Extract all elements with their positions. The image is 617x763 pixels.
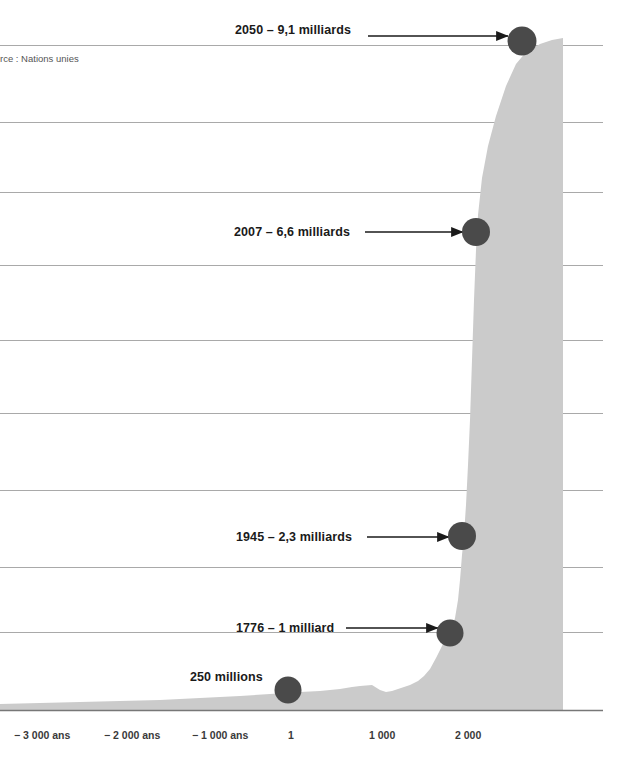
x-tick-label-1000: 1 000 bbox=[369, 730, 395, 741]
population-area-path bbox=[0, 38, 563, 710]
x-tick-label-year-1: 1 bbox=[288, 730, 294, 741]
marker-1945[interactable] bbox=[448, 522, 476, 550]
x-tick-label-minus-2000: − 2 000 ans bbox=[104, 730, 160, 741]
marker-1776[interactable] bbox=[437, 620, 464, 647]
annotation-label-2050: 2050 – 9,1 milliards bbox=[235, 24, 351, 37]
x-tick-label-minus-3000: − 3 000 ans bbox=[14, 730, 70, 741]
annotation-label-1945: 1945 – 2,3 milliards bbox=[236, 531, 352, 544]
annotation-label-1776: 1776 – 1 milliard bbox=[236, 622, 334, 635]
chart-plot-area bbox=[0, 0, 617, 763]
marker-2007[interactable] bbox=[462, 218, 490, 246]
annotation-label-2007: 2007 – 6,6 milliards bbox=[234, 226, 350, 239]
annotation-label-250-millions: 250 millions bbox=[190, 671, 263, 684]
population-area-chart: 2050 – 9,1 milliards 2007 – 6,6 milliard… bbox=[0, 0, 617, 763]
source-note: rce : Nations unies bbox=[0, 54, 79, 64]
marker-250-millions[interactable] bbox=[275, 677, 302, 704]
x-tick-label-minus-1000: − 1 000 ans bbox=[192, 730, 248, 741]
marker-2050[interactable] bbox=[508, 27, 537, 56]
x-tick-label-2000: 2 000 bbox=[455, 730, 481, 741]
